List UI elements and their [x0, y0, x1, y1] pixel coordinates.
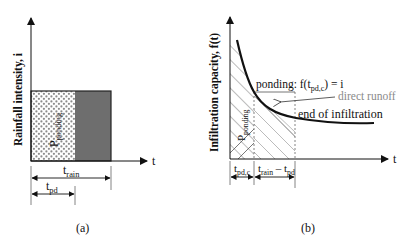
ponding-label-suffix: ) = i [324, 78, 343, 90]
train-label: train [63, 164, 79, 176]
x-axis-label-a-text: t [152, 154, 155, 168]
end-of-infiltration-label: end of infiltration [298, 108, 383, 120]
area-label-b: Pponding [236, 110, 247, 141]
caption-a: (a) [76, 222, 89, 234]
caption-a-text: (a) [76, 221, 89, 235]
caption-b-text: (b) [301, 221, 315, 235]
runoff-area-dark [75, 91, 111, 161]
y-axis-label-b: Infiltration capacity, f(t) [209, 33, 221, 152]
direct-runoff-pointer [280, 97, 335, 102]
tpd-label-sub: pd [49, 186, 57, 195]
panel-a [31, 18, 147, 205]
area-label-b-main: P [235, 135, 247, 141]
ponding-label: ponding: f(tpd,c) = i [256, 79, 344, 91]
train-label-sub: rain [66, 170, 79, 179]
panel-b [230, 17, 388, 188]
y-axis-label-a-text: Rainfall intensity, i [12, 53, 24, 146]
tpd-label: tpd [46, 180, 58, 192]
area-label-a-main: P [47, 140, 61, 147]
tpdc-label-sub: pd,c [237, 168, 250, 177]
caption-b: (b) [301, 222, 315, 234]
x-axis-label-b: t [393, 153, 396, 165]
y-axis-label-b-text: Infiltration capacity, f(t) [208, 33, 220, 152]
area-label-b-sub: ponding [241, 110, 250, 135]
direct-runoff-label: direct runoff [338, 91, 396, 103]
direct-runoff-text: direct runoff [338, 90, 396, 102]
infiltration-hatch-light [254, 96, 295, 159]
ponding-label-sub: pd,c [311, 84, 325, 93]
y-axis-label-a: Rainfall intensity, i [13, 53, 25, 146]
ponding-label-prefix: ponding: f(t [256, 78, 311, 90]
end-of-infiltration-text: end of infiltration [298, 107, 383, 121]
train-minus-tpd-label: train – tpd [258, 163, 295, 174]
x-axis-label-a: t [152, 155, 155, 167]
x-axis-label-b-text: t [393, 152, 396, 166]
area-label-a-sub: ponding [54, 113, 63, 140]
trmp-mid: – t [273, 162, 287, 174]
trmp-sub1: rain [261, 168, 273, 177]
trmp-sub2: pd [287, 168, 295, 177]
area-label-a: Pponding [48, 113, 60, 147]
tpdc-label: tpd,c [234, 163, 250, 174]
